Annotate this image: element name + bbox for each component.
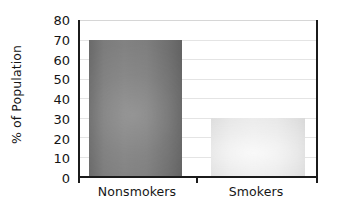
- y-axis-tick-labels: 80 70 60 50 40 30 20 10 0: [28, 20, 74, 178]
- y-axis-title-text: % of Population: [10, 44, 25, 143]
- y-tick-label: 10: [53, 152, 70, 165]
- y-tick-label: 50: [53, 73, 70, 86]
- x-axis-tick-middle: [196, 178, 198, 183]
- x-axis-tick-labels: Nonsmokers Smokers: [78, 184, 318, 206]
- bar-smokers: [211, 118, 305, 177]
- y-tick-label: 0: [62, 172, 70, 185]
- x-axis-tick-left: [78, 178, 80, 183]
- y-tick-label: 60: [53, 53, 70, 66]
- bar-nonsmokers: [89, 40, 182, 177]
- x-tick-label-smokers: Smokers: [229, 184, 284, 199]
- y-tick-label: 40: [53, 93, 70, 106]
- x-axis-tick-right: [316, 178, 318, 183]
- bar-series: [80, 20, 316, 176]
- y-tick-label: 70: [53, 33, 70, 46]
- plot-area: [78, 20, 318, 178]
- y-axis-title: % of Population: [6, 0, 28, 188]
- y-tick-label: 20: [53, 132, 70, 145]
- x-tick-label-nonsmokers: Nonsmokers: [98, 184, 176, 199]
- bar-chart: % of Population 80 70 60 50 40 30 20 10 …: [0, 0, 340, 208]
- y-tick-label: 80: [53, 14, 70, 27]
- y-tick-label: 30: [53, 112, 70, 125]
